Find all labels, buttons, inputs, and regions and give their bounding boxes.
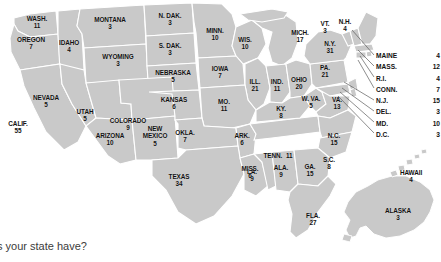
state-label-WV: W. VA. 5 — [302, 95, 321, 110]
callout-row-CT: CONN. 7 — [376, 84, 440, 95]
callout-value-RI: 4 — [429, 73, 440, 84]
state-label-OH: OHIO 20 — [291, 76, 307, 91]
state-label-TN: TENN. 11 — [264, 152, 293, 159]
state-label-OK: OKLA. 7 — [175, 129, 194, 144]
callout-value-DE: 3 — [429, 106, 440, 117]
state-label-ID: IDAHO 4 — [59, 39, 79, 54]
state-label-SD: S. DAK. 3 — [159, 42, 182, 57]
callout-label-ME: MAINE — [376, 50, 397, 61]
state-label-AR: ARK. 6 — [234, 132, 249, 147]
callout-value-ME: 4 — [429, 50, 440, 61]
callout-label-CT: CONN. — [376, 84, 397, 95]
state-label-PA: PA. 21 — [320, 64, 330, 79]
state-label-KS: KANSAS 6 — [161, 96, 187, 111]
state-shape-HI-5[interactable] — [421, 149, 427, 154]
state-label-NC: N.C. 15 — [328, 132, 340, 147]
state-label-MS: MISS. 6 — [242, 165, 259, 180]
callout-value-MD: 10 — [429, 118, 440, 129]
callout-row-DE: DEL. 3 — [376, 106, 440, 117]
state-label-MI: MICH. 17 — [291, 29, 309, 44]
callout-row-NJ: N.J. 15 — [376, 95, 440, 106]
state-label-KY: KY. 8 — [276, 105, 286, 120]
callout-list: MAINE 4 MASS. 12 R.I. 4 CONN. 7 N.J. 15 … — [376, 50, 440, 140]
state-label-GA: GA. 15 — [304, 163, 315, 178]
state-label-AZ: ARIZONA 10 — [96, 132, 124, 147]
state-label-NM: NEW MEXICO 5 — [143, 125, 168, 147]
state-label-WA: WASH. 11 — [27, 15, 47, 30]
callout-label-NJ: N.J. — [376, 95, 388, 106]
state-label-CO: COLORADO 9 — [110, 117, 146, 132]
state-shape-AK-aleutians[interactable] — [342, 234, 352, 242]
state-label-MN: MINN. 10 — [206, 27, 224, 42]
state-label-HI: HAWAII 4 — [400, 169, 422, 184]
callout-row-ME: MAINE 4 — [376, 50, 440, 61]
callout-value-NJ: 15 — [429, 95, 440, 106]
callout-label-DC: D.C. — [376, 129, 389, 140]
callout-label-MA: MASS. — [376, 61, 397, 72]
callout-row-MA: MASS. 12 — [376, 61, 440, 72]
state-shape-ME[interactable] — [358, 12, 378, 44]
state-label-VA: VA. 13 — [332, 96, 342, 111]
electoral-vote-map: WASH. 11 OREGON 7 IDAHO 4 MONTANA 3 WYOM… — [0, 0, 441, 262]
callout-label-MD: MD. — [376, 118, 388, 129]
state-label-MO: MO. 11 — [218, 98, 230, 113]
callout-value-DC: 3 — [429, 129, 440, 140]
state-label-NY: N.Y. 31 — [324, 40, 335, 55]
state-label-IL: ILL. 21 — [250, 78, 261, 93]
state-label-CA: CALIF. 55 — [8, 120, 27, 135]
callout-row-RI: R.I. 4 — [376, 73, 440, 84]
state-label-VT: VT. 3 — [321, 20, 330, 35]
state-shape-HI-3[interactable] — [406, 159, 413, 165]
state-label-IN: IND. 11 — [271, 78, 283, 93]
callout-value-CT: 7 — [429, 84, 440, 95]
state-label-OR: OREGON 7 — [17, 36, 45, 51]
state-shape-HI-4[interactable] — [414, 154, 420, 159]
callout-label-DE: DEL. — [376, 106, 391, 117]
state-label-AK: ALASKA 3 — [385, 207, 411, 222]
callout-row-DC: D.C. 3 — [376, 129, 440, 140]
state-label-WY: WYOMING 3 — [102, 53, 133, 68]
state-label-AL: ALA. 9 — [274, 164, 289, 179]
state-label-IA: IOWA 7 — [212, 65, 229, 80]
state-label-NH: N.H. 4 — [339, 18, 351, 33]
state-label-FL: FLA. 27 — [306, 212, 320, 227]
caption-text: s your state have? — [0, 240, 87, 252]
callout-value-MA: 12 — [429, 61, 440, 72]
state-label-TX: TEXAS 34 — [169, 173, 190, 188]
state-label-NE: NEBRASKA 5 — [155, 69, 190, 84]
state-label-ND: N. DAK. 3 — [158, 12, 181, 27]
state-label-NV: NEVADA 5 — [33, 94, 59, 109]
state-label-SC: S.C. 8 — [323, 156, 335, 171]
state-label-MT: MONTANA 3 — [94, 16, 125, 31]
state-label-UT: UTAH 5 — [77, 108, 94, 123]
state-label-WI: WIS. 10 — [238, 36, 251, 51]
callout-label-RI: R.I. — [376, 73, 386, 84]
callout-row-MD: MD. 10 — [376, 118, 440, 129]
